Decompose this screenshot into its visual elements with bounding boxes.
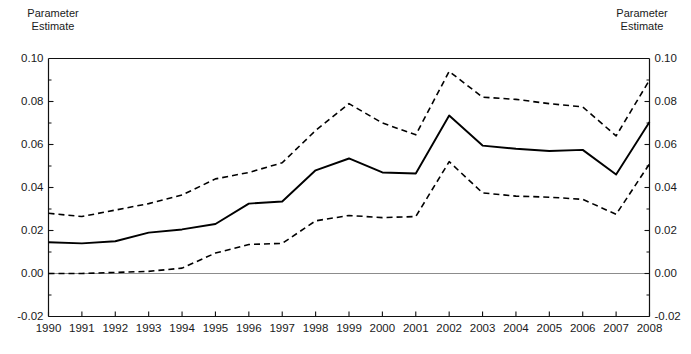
x-tick-label: 1999: [333, 323, 365, 335]
x-tick-label: 2002: [433, 323, 465, 335]
y-tick-label-right: 0.10: [655, 53, 677, 65]
x-tick-label: 1991: [66, 323, 98, 335]
y-axis-right-caption: Parameter Estimate: [599, 7, 685, 33]
y-tick-label-left: 0.00: [21, 268, 43, 280]
x-tick-label: 2004: [500, 323, 532, 335]
y-tick-label-right: 0.06: [655, 139, 677, 151]
y-tick-label-right: 0.04: [655, 182, 677, 194]
x-tick-label: 1992: [99, 323, 131, 335]
x-tick-label: 1990: [33, 323, 65, 335]
data-series: [49, 71, 650, 273]
y-tick-label-right: -0.02: [655, 311, 681, 323]
y-tick-label-right: 0.00: [655, 268, 677, 280]
series-line: [49, 115, 650, 243]
plot-frame: [49, 59, 650, 317]
y-tick-label-right: 0.08: [655, 96, 677, 108]
x-tick-label: 1993: [133, 323, 165, 335]
y-tick-label-left: -0.02: [17, 311, 43, 323]
line-chart-plot: [0, 0, 691, 354]
y-tick-label-left: 0.08: [21, 96, 43, 108]
y-tick-label-left: 0.06: [21, 139, 43, 151]
chart-figure: Parameter Estimate Parameter Estimate 0.…: [0, 0, 691, 354]
x-tick-label: 2008: [634, 323, 666, 335]
y-tick-label-left: 0.10: [21, 53, 43, 65]
x-tick-label: 2001: [400, 323, 432, 335]
x-tick-label: 2007: [600, 323, 632, 335]
y-tick-label-left: 0.02: [21, 225, 43, 237]
x-tick-label: 2003: [467, 323, 499, 335]
x-tick-label: 1997: [266, 323, 298, 335]
x-tick-label: 2000: [366, 323, 398, 335]
x-tick-label: 1994: [166, 323, 198, 335]
x-tick-label: 1995: [199, 323, 231, 335]
y-axis-left-caption: Parameter Estimate: [10, 7, 96, 33]
series-line: [49, 71, 650, 216]
series-line: [49, 162, 650, 274]
y-tick-label-left: 0.04: [21, 182, 43, 194]
axis-ticks: [49, 80, 650, 317]
x-tick-label: 1996: [233, 323, 265, 335]
x-tick-label: 2005: [533, 323, 565, 335]
y-tick-label-right: 0.02: [655, 225, 677, 237]
x-tick-label: 1998: [300, 323, 332, 335]
x-tick-label: 2006: [567, 323, 599, 335]
